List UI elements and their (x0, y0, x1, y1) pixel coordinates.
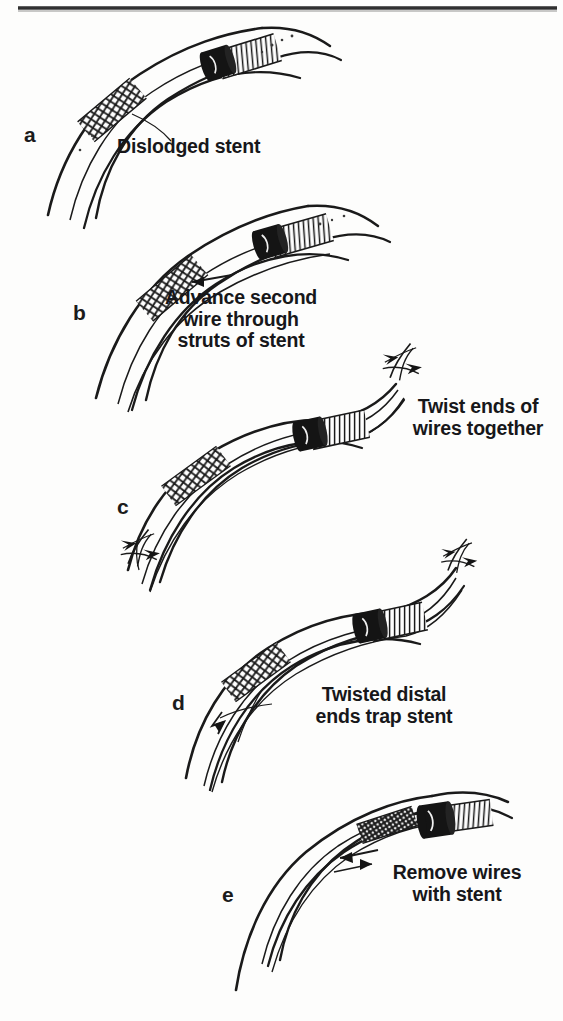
caption-panel-a: Dislodged stent (117, 136, 347, 158)
catheter-tip-e (415, 801, 457, 840)
stent-mesh-e (356, 806, 417, 843)
panel-letter-e: e (222, 884, 234, 905)
stent-mesh-c (161, 446, 230, 505)
panel-letter-d: d (172, 692, 185, 713)
panel-a-illustration (48, 28, 341, 228)
caption-panel-b: Advance second wire through struts of st… (132, 287, 350, 352)
stent-retrieval-figure: a b c d e Dislodged stent Advance second… (0, 0, 563, 1021)
caption-panel-e: Remove wires with stent (362, 862, 552, 905)
panel-letter-b: b (73, 302, 86, 323)
caption-panel-c: Twist ends of wires together (395, 396, 561, 439)
stent-mesh-a (78, 78, 147, 142)
panel-c-illustration (118, 342, 423, 592)
panel-letter-c: c (117, 496, 129, 517)
panel-letter-a: a (24, 124, 36, 145)
caption-panel-d: Twisted distal ends trap stent (278, 684, 490, 727)
twisted-wire-end-d-distal (439, 538, 479, 575)
panel-d-illustration (186, 538, 479, 792)
speckles-a (79, 35, 294, 152)
twisted-wire-end-c-distal (380, 342, 423, 382)
